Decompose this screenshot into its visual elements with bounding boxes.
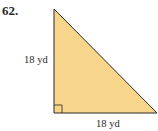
triangle-shape: [54, 9, 157, 113]
bottom-side-label: 18 yd: [96, 118, 120, 129]
right-triangle-figure: [0, 0, 158, 131]
left-side-label: 18 yd: [24, 54, 48, 65]
